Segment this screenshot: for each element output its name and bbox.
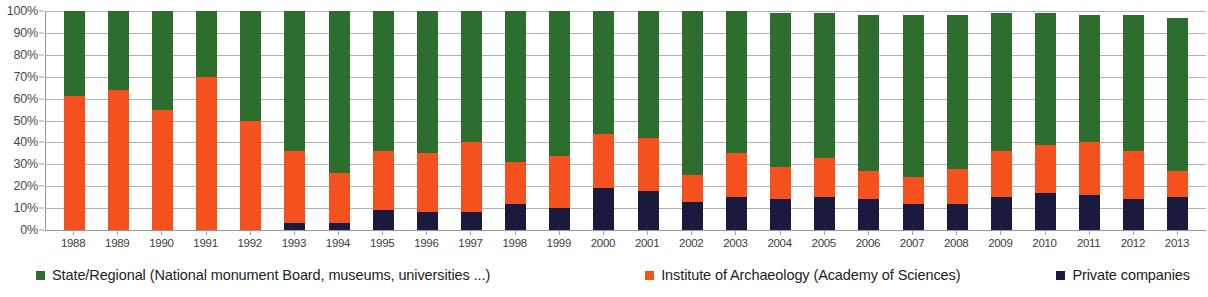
legend-label-private-companies: Private companies [1072,268,1190,283]
bar-segment-private-companies [638,191,659,230]
x-axis: 1988198919901991199219931994199519961997… [45,231,1205,255]
x-axis-tick: 1998 [493,231,537,255]
x-axis-tick: 1993 [272,231,316,255]
bar-segment-state-regional [947,15,968,168]
bar-column[interactable] [626,11,670,230]
x-axis-tick: 1995 [360,231,404,255]
bar-column[interactable] [494,11,538,230]
bar-stack [329,11,350,230]
x-axis-tick-mark [470,231,471,235]
bar-column[interactable] [140,11,184,230]
x-axis-tick-mark [1000,231,1001,235]
bar-segment-private-companies [417,212,438,230]
bar-column[interactable] [273,11,317,230]
stacked-bar-chart: 0%10%20%30%40%50%60%70%80%90%100% 198819… [0,0,1208,297]
bar-column[interactable] [1112,11,1156,230]
bar-column[interactable] [979,11,1023,230]
x-axis-tick-label: 2001 [625,238,669,250]
x-axis-tick-label: 2011 [1067,238,1111,250]
bar-column[interactable] [759,11,803,230]
bar-stack [1123,11,1144,230]
x-axis-tick: 1999 [537,231,581,255]
bar-stack [240,11,261,230]
y-axis-tick-label: 0% [20,224,38,237]
bar-segment-state-regional [152,11,173,110]
chart-legend: State/Regional (National monument Board,… [0,262,1208,288]
y-axis-tick-label: 90% [14,27,38,40]
bar-column[interactable] [229,11,273,230]
y-axis-tick-label: 50% [14,114,38,127]
bar-column[interactable] [803,11,847,230]
bar-column[interactable] [184,11,228,230]
x-axis-tick: 2011 [1067,231,1111,255]
x-axis-tick-label: 1995 [360,238,404,250]
bar-column[interactable] [582,11,626,230]
x-axis-tick: 2010 [1022,231,1066,255]
legend-item-private-companies[interactable]: Private companies [1056,268,1190,283]
y-axis-tick-label: 40% [14,136,38,149]
y-axis-tick-mark [39,142,44,143]
y-axis-tick-mark [39,54,44,55]
bar-segment-institute-of-archaeology [814,158,835,197]
bar-column[interactable] [847,11,891,230]
bar-segment-private-companies [858,199,879,230]
x-axis-tick-mark [515,231,516,235]
bar-segment-private-companies [814,197,835,230]
bar-segment-institute-of-archaeology [505,162,526,204]
bar-segment-private-companies [770,199,791,230]
bar-column[interactable] [935,11,979,230]
x-axis-tick: 2012 [1111,231,1155,255]
bar-segment-private-companies [682,202,703,230]
y-axis-tick-mark [39,208,44,209]
bar-stack [770,11,791,230]
legend-swatch-state-regional-icon [36,271,45,280]
x-axis-tick-mark [780,231,781,235]
x-axis-tick-mark [382,231,383,235]
x-axis-tick-mark [117,231,118,235]
bar-column[interactable] [96,11,140,230]
x-axis-tick: 1997 [448,231,492,255]
bar-stack [903,11,924,230]
legend-label-state-regional: State/Regional (National monument Board,… [52,268,490,283]
bar-segment-state-regional [814,13,835,158]
x-axis-tick-mark [1177,231,1178,235]
bar-segment-institute-of-archaeology [770,167,791,200]
x-axis-tick-mark [206,231,207,235]
bar-column[interactable] [361,11,405,230]
y-axis-tick-label: 70% [14,70,38,83]
bar-column[interactable] [1023,11,1067,230]
bar-segment-institute-of-archaeology [373,151,394,210]
x-axis-tick-label: 1993 [272,238,316,250]
bar-column[interactable] [714,11,758,230]
bar-segment-private-companies [284,223,305,230]
bar-column[interactable] [405,11,449,230]
bar-column[interactable] [1068,11,1112,230]
x-axis-tick-label: 1991 [183,238,227,250]
bar-segment-state-regional [373,11,394,151]
x-axis-tick-label: 1996 [404,238,448,250]
bar-stack [858,11,879,230]
x-axis-tick: 2000 [581,231,625,255]
legend-item-institute-of-archaeology[interactable]: Institute of Archaeology (Academy of Sci… [645,268,960,283]
bar-segment-institute-of-archaeology [991,151,1012,197]
bar-column[interactable] [449,11,493,230]
x-axis-tick: 1989 [95,231,139,255]
legend-item-state-regional[interactable]: State/Regional (National monument Board,… [36,268,490,283]
bar-column[interactable] [317,11,361,230]
bar-column[interactable] [891,11,935,230]
bar-column[interactable] [670,11,714,230]
x-axis-tick-mark [603,231,604,235]
y-axis: 0%10%20%30%40%50%60%70%80%90%100% [0,0,44,240]
bar-segment-institute-of-archaeology [1035,145,1056,193]
x-axis-tick-mark [1133,231,1134,235]
bar-segment-private-companies [505,204,526,230]
bar-column[interactable] [538,11,582,230]
bar-column[interactable] [1156,11,1200,230]
x-axis-tick-mark [1045,231,1046,235]
bar-segment-state-regional [1123,15,1144,151]
bar-segment-institute-of-archaeology [682,175,703,201]
bar-column[interactable] [52,11,96,230]
bar-stack [505,11,526,230]
x-axis-tick-label: 2005 [802,238,846,250]
bar-segment-institute-of-archaeology [638,138,659,191]
